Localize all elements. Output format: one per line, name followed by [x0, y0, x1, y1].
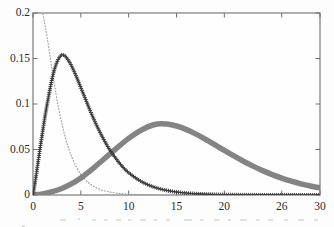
x-tick-label: 20 — [219, 201, 231, 213]
x-tick-label: 30 — [314, 201, 326, 213]
x-tick-label: 5 — [78, 201, 84, 213]
y-tick-label: 0.05 — [10, 144, 30, 156]
x-tick-label: 10 — [123, 201, 135, 213]
figure-container: 00.050.10.150.2 051015202630 — [0, 0, 334, 227]
plot-background — [33, 13, 320, 195]
x-tick-label: 0 — [30, 201, 36, 213]
y-tick-label: 0 — [24, 189, 30, 201]
y-tick-label: 0.1 — [16, 98, 30, 110]
x-tick-label: 26 — [276, 201, 288, 213]
y-tick-label: 0.2 — [16, 7, 30, 19]
y-tick-label: 0.15 — [10, 53, 30, 65]
chart-canvas — [0, 0, 334, 227]
x-tick-label: 15 — [171, 201, 183, 213]
